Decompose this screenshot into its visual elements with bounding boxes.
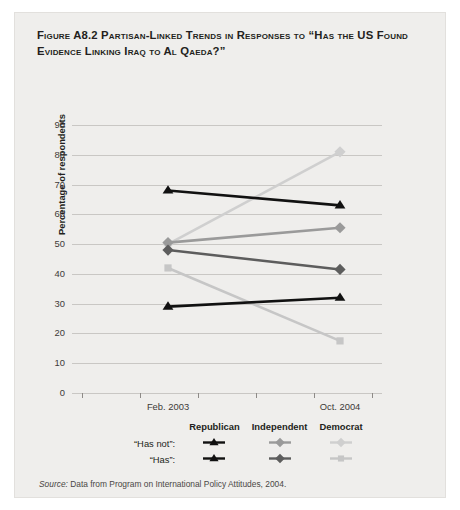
legend-row-label: “Has not”:: [134, 435, 183, 451]
figure-title: Figure A8.2 Partisan-Linked Trends in Re…: [37, 27, 429, 59]
legend-col-independent: Independent: [246, 421, 314, 435]
x-axis-tick-mark: [256, 393, 257, 398]
chart-legend: Republican Independent Democrat “Has not…: [134, 421, 434, 467]
figure-panel: Figure A8.2 Partisan-Linked Trends in Re…: [14, 12, 446, 498]
chart-plot-area: Percentage of respondents 01020304050607…: [72, 125, 382, 393]
x-axis-tick-mark: [372, 393, 373, 398]
y-axis-tick-label: 40: [39, 268, 65, 279]
legend-col-republican: Republican: [183, 421, 246, 435]
gridline: [72, 393, 382, 394]
legend-swatch-independent-has-not: [246, 435, 314, 451]
legend-row: “Has not”:: [134, 435, 369, 451]
legend-swatch-republican-has: [183, 451, 246, 467]
x-axis-tick-mark: [140, 393, 141, 398]
y-axis-tick-label: 60: [39, 208, 65, 219]
legend-header-row: Republican Independent Democrat: [134, 421, 369, 435]
y-axis-tick-label: 70: [39, 179, 65, 190]
source-prefix: Source:: [39, 479, 68, 489]
x-axis-tick-label: Oct. 2004: [320, 401, 361, 412]
legend-row-label: “Has”:: [134, 451, 183, 467]
legend-corner-cell: [134, 421, 183, 435]
x-axis-tick-label: Feb. 2003: [147, 401, 189, 412]
legend-swatch-democrat-has: [313, 451, 368, 467]
legend-row: “Has”:: [134, 451, 369, 467]
y-axis-tick-label: 20: [39, 327, 65, 338]
legend-swatch-independent-has: [246, 451, 314, 467]
series-independent-has-not: [162, 222, 345, 248]
y-axis-tick-label: 90: [39, 119, 65, 130]
source-text: Data from Program on International Polic…: [68, 479, 286, 489]
x-axis-tick-mark: [198, 393, 199, 398]
legend-table: Republican Independent Democrat “Has not…: [134, 421, 369, 467]
legend-swatch-republican-has-not: [183, 435, 246, 451]
series-republican-has-not: [163, 185, 346, 208]
y-axis-tick-label: 80: [39, 149, 65, 160]
y-axis-tick-label: 0: [39, 387, 65, 398]
x-axis-tick-mark: [82, 393, 83, 398]
legend-swatch-democrat-has-not: [313, 435, 368, 451]
series-republican-has: [163, 292, 346, 309]
y-axis-tick-label: 50: [39, 238, 65, 249]
series-layer: [72, 125, 382, 393]
y-axis-tick-label: 30: [39, 298, 65, 309]
series-independent-has: [162, 244, 345, 275]
x-axis-tick-mark: [314, 393, 315, 398]
y-axis-tick-label: 10: [39, 357, 65, 368]
legend-col-democrat: Democrat: [313, 421, 368, 435]
figure-source-note: Source: Data from Program on Internation…: [39, 479, 286, 489]
legend-body: “Has not”:“Has”:: [134, 435, 369, 467]
